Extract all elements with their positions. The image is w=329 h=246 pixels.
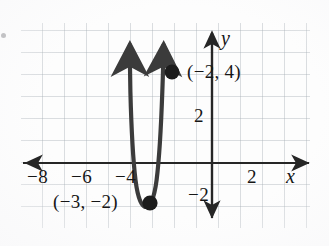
data-point-marker-vertex (142, 195, 157, 210)
y-tick-label-neg2: −2 (188, 185, 209, 204)
graph-figure: −8 −6 −4 2 2 −2 x y (−2, 4) (−3, −2) (0, 0, 329, 246)
y-tick-label-pos2: 2 (194, 106, 204, 125)
x-tick-label-neg6: −6 (71, 167, 92, 186)
point-label-vertex: (−3, −2) (53, 192, 118, 211)
point-label-upper: (−2, 4) (187, 62, 241, 81)
x-tick-label-neg8: −8 (27, 167, 48, 186)
y-axis-label: y (221, 28, 230, 48)
x-axis-label: x (286, 166, 295, 186)
data-point-marker-upper (165, 65, 180, 80)
x-tick-label-pos2: 2 (247, 167, 257, 186)
plot-canvas (0, 0, 329, 246)
x-tick-label-neg4: −4 (115, 167, 136, 186)
